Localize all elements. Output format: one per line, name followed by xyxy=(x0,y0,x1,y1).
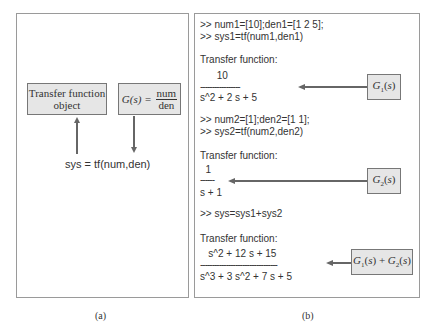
tf-label: Transfer function: xyxy=(200,54,277,66)
tf-bar: --------------------------------- xyxy=(200,259,277,271)
gs-lhs: G(s) = xyxy=(122,93,152,105)
cmd-line: >> sys=sys1+sys2 xyxy=(200,208,282,220)
transfer-function-object-box: Transfer function object xyxy=(27,83,107,115)
tf-label: Transfer function: xyxy=(200,233,277,245)
arrow-g1-shaft xyxy=(305,86,367,88)
caption-b: (b) xyxy=(302,310,314,321)
gs-denominator: den xyxy=(158,100,174,111)
g2-label: G2(s) xyxy=(372,173,395,188)
arrow-sum-shaft xyxy=(333,262,351,264)
cmd-line: >> num2=[1];den2=[1 1]; xyxy=(200,114,310,126)
arrow-left-icon xyxy=(228,178,235,184)
tf-denominator: s^2 + 2 s + 5 xyxy=(200,92,257,104)
panel-b: >> num1=[10];den1=[1 2 5]; >> sys1=tf(nu… xyxy=(194,13,420,298)
arrow-left-icon xyxy=(298,84,305,90)
cmd-line: >> sys1=tf(num1,den1) xyxy=(200,31,303,43)
tf-object-line1: Transfer function xyxy=(29,87,105,99)
arrow-g2-shaft xyxy=(235,180,367,182)
cmd-line: >> num1=[10];den1=[1 2 5]; xyxy=(200,19,323,31)
tf-denominator: s^3 + 3 s^2 + 7 s + 5 xyxy=(200,271,292,283)
g1-box: G1(s) xyxy=(367,74,401,100)
tf-bar: ------ xyxy=(200,174,214,186)
arrow-left-icon xyxy=(326,260,333,266)
arrow-down-icon xyxy=(131,147,137,153)
tf-command: sys = tf(num,den) xyxy=(65,158,150,170)
sum-box: G1(s) + G2(s) xyxy=(351,249,413,275)
g2-box: G2(s) xyxy=(367,168,401,194)
gs-numerator: num xyxy=(156,88,178,100)
g1-label: G1(s) xyxy=(372,79,395,94)
arrow-up-shaft xyxy=(76,122,78,154)
arrow-down-shaft xyxy=(133,116,135,148)
cmd-line: >> sys2=tf(num2,den2) xyxy=(200,126,303,138)
tf-denominator: s + 1 xyxy=(200,187,222,199)
tf-label: Transfer function: xyxy=(200,150,277,162)
panel-a: Transfer function object G(s) = num den … xyxy=(16,13,189,298)
gs-fraction: num den xyxy=(156,88,178,111)
sum-label: G1(s) + G2(s) xyxy=(353,254,411,269)
tf-object-line2: object xyxy=(54,99,81,111)
gs-definition-box: G(s) = num den xyxy=(118,83,181,115)
caption-a: (a) xyxy=(95,310,106,321)
